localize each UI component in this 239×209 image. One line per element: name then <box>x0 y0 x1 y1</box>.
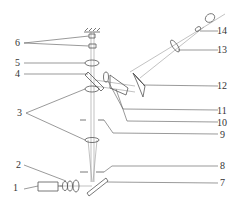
label-8: 8 <box>220 161 225 171</box>
label-2: 2 <box>16 160 21 170</box>
components <box>38 12 216 196</box>
lens-5 <box>85 60 99 66</box>
mirror-7 <box>87 178 108 196</box>
label-6: 6 <box>15 38 20 48</box>
label-9: 9 <box>220 130 225 140</box>
beam-splitter-4 <box>85 72 104 91</box>
top-mirror-6 <box>84 28 100 48</box>
beam-paths <box>60 14 225 186</box>
label-12: 12 <box>217 81 227 91</box>
label-13: 13 <box>217 45 227 55</box>
label-11: 11 <box>217 106 227 116</box>
label-5: 5 <box>15 58 20 68</box>
label-1: 1 <box>13 183 18 193</box>
prism-10 <box>110 75 128 95</box>
label-10: 10 <box>217 118 227 128</box>
lens-11 <box>104 72 109 82</box>
diagram-canvas <box>0 0 239 209</box>
detector <box>204 12 217 24</box>
lens-14 <box>194 26 201 33</box>
prism-12-face <box>133 73 145 86</box>
optical-setup-diagram: 1 2 3 4 5 6 7 8 9 10 11 12 13 14 <box>0 0 239 209</box>
label-14: 14 <box>217 26 227 36</box>
label-7: 7 <box>220 178 225 188</box>
lens-13 <box>169 39 181 53</box>
laser-1 <box>38 182 58 191</box>
label-3: 3 <box>17 108 22 118</box>
lens-3-upper <box>85 86 99 92</box>
label-4: 4 <box>15 69 20 79</box>
leader-lines <box>24 31 218 189</box>
